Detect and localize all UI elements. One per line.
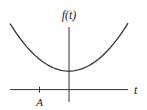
t-axis-label: t (134, 83, 138, 97)
f-axis-label: f(t) (62, 8, 77, 22)
chart: A t f(t) (0, 0, 147, 110)
x-tick-label: A (35, 96, 43, 108)
